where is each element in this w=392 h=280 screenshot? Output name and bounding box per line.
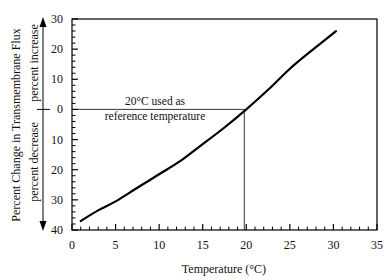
y-axis-upper-label: percent increase	[27, 24, 41, 102]
y-tick-label: 20	[51, 163, 63, 177]
y-tick-label: 30	[51, 193, 63, 207]
x-tick-label: 15	[197, 238, 209, 252]
y-tick-label: 20	[51, 42, 63, 56]
y-tick-label: 10	[51, 72, 63, 86]
flux-temperature-chart: Percent Change in Transmembrane Flux per…	[0, 0, 392, 280]
x-tick-label: 20	[240, 238, 252, 252]
x-tick-label: 10	[153, 238, 165, 252]
x-axis-ticks	[72, 224, 377, 230]
annotation-line-1: 20°C used as	[125, 95, 186, 107]
plot-area	[72, 19, 377, 230]
y-axis-lower-label: percent decrease	[27, 122, 41, 202]
x-axis-title: Temperature (°C)	[182, 262, 266, 276]
x-tick-label: 30	[327, 238, 339, 252]
x-tick-label: 25	[284, 238, 296, 252]
y-tick-label: 30	[51, 12, 63, 26]
y-tick-label: 40	[51, 223, 63, 237]
y-axis-ticks	[72, 19, 78, 230]
x-tick-label: 5	[113, 238, 119, 252]
y-axis-tick-labels: 302010010203040	[51, 12, 63, 237]
annotation-line-2: reference temperature	[105, 110, 206, 123]
x-tick-label: 35	[371, 238, 383, 252]
x-tick-label: 0	[69, 238, 75, 252]
y-tick-label: 0	[57, 102, 63, 116]
x-axis-tick-labels: 05101520253035	[69, 238, 383, 252]
y-axis-title: Percent Change in Transmembrane Flux	[9, 28, 23, 221]
y-tick-label: 10	[51, 133, 63, 147]
flux-curve	[81, 31, 336, 221]
